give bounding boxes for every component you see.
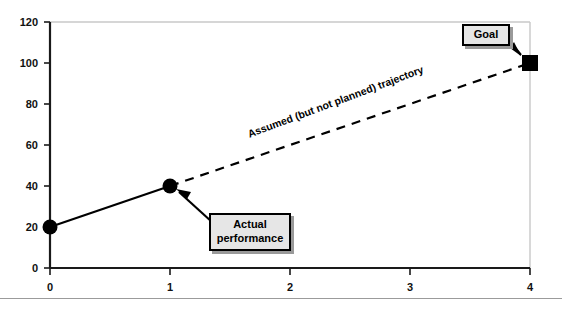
- x-tick-label-4: 4: [527, 281, 533, 293]
- goal-marker: [522, 55, 538, 71]
- goal-callout-box: Goal: [462, 24, 510, 46]
- y-tick-label-120: 120: [14, 16, 38, 28]
- actual-performance-callout-line1: Actual: [233, 218, 267, 230]
- y-tick-label-0: 0: [14, 262, 38, 274]
- y-tick-label-80: 80: [14, 98, 38, 110]
- x-tick-label-3: 3: [407, 281, 413, 293]
- y-tick-label-100: 100: [14, 57, 38, 69]
- x-tick-label-0: 0: [47, 281, 53, 293]
- x-tick-label-1: 1: [167, 281, 173, 293]
- bottom-divider: [0, 298, 562, 299]
- actual-performance-line: [50, 186, 170, 227]
- actual-performance-callout-text: Actual performance: [217, 218, 284, 246]
- x-tick-label-2: 2: [287, 281, 293, 293]
- y-tick-label-60: 60: [14, 139, 38, 151]
- goal-callout-label: Goal: [474, 28, 498, 42]
- y-tick-label-40: 40: [14, 180, 38, 192]
- chart-figure: 120 100 80 60 40 20 0 0 1 2 3 4 Assumed …: [0, 0, 562, 310]
- actual-callout-arrow: [176, 189, 212, 222]
- data-point-marker: [43, 220, 58, 235]
- chart-plot-area: [0, 0, 562, 310]
- y-tick-label-20: 20: [14, 221, 38, 233]
- actual-performance-callout-box: Actual performance: [209, 213, 291, 251]
- assumed-trajectory-line: [170, 63, 530, 186]
- actual-performance-callout-line2: performance: [217, 232, 284, 244]
- data-point-marker: [163, 179, 178, 194]
